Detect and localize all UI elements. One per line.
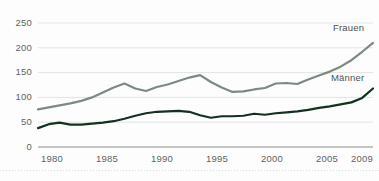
y-tick-0: 0 <box>2 141 32 152</box>
y-tick-50: 50 <box>2 116 32 127</box>
x-tick-2009: 2009 <box>342 153 379 164</box>
series-lines-group <box>38 43 373 128</box>
series-label-maenner: Männer <box>331 72 364 83</box>
y-tick-200: 200 <box>2 42 32 53</box>
y-tick-100: 100 <box>2 91 32 102</box>
series-line-frauen <box>38 43 373 109</box>
y-tick-250: 250 <box>2 17 32 28</box>
x-tick-2000: 2000 <box>252 153 292 164</box>
x-tick-1985: 1985 <box>87 153 127 164</box>
series-label-frauen: Frauen <box>333 22 364 33</box>
x-tick-2005: 2005 <box>307 153 347 164</box>
x-tick-1995: 1995 <box>197 153 237 164</box>
x-tick-1990: 1990 <box>142 153 182 164</box>
y-tick-150: 150 <box>2 66 32 77</box>
x-tick-1980: 1980 <box>32 153 72 164</box>
line-chart: 250 200 150 100 50 0 1980 1985 1990 1995… <box>0 0 379 181</box>
